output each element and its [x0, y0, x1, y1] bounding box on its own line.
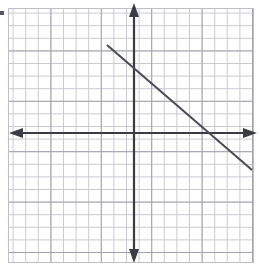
grid-major-lines [8, 8, 253, 262]
coordinate-graph-figure: Coordinate plane with a straight line gr… [0, 0, 260, 271]
scan-speck-artifact [0, 11, 4, 15]
graph-canvas [0, 0, 260, 271]
grid-group [8, 8, 253, 262]
